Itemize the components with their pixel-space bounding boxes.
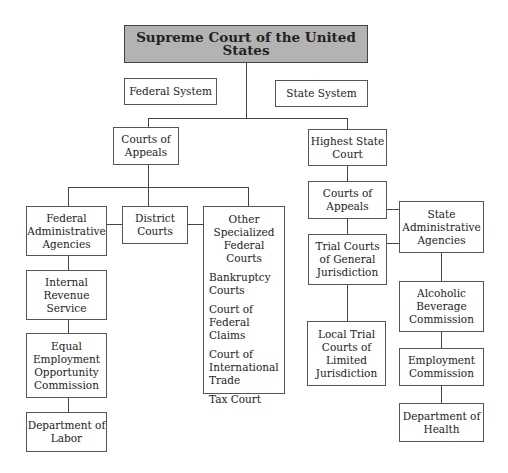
- connector: [386, 243, 399, 244]
- connector: [68, 187, 249, 188]
- other-specialized-federal-courts: Other Specialized Federal Courts Bankrup…: [203, 206, 285, 394]
- connector: [68, 256, 69, 270]
- label: Department of Health: [403, 410, 481, 436]
- connector: [347, 118, 348, 129]
- eeoc: Equal Employment Opportunity Commission: [26, 333, 107, 398]
- trial-courts-general-jurisdiction: Trial Courts of General Jurisdiction: [308, 234, 387, 285]
- state-system-label-box: State System: [275, 80, 368, 107]
- alcoholic-beverage-commission: Alcoholic Beverage Commission: [399, 281, 484, 332]
- connector: [187, 224, 203, 225]
- federal-system-label: Federal System: [129, 85, 212, 98]
- specialized-item: Bankruptcy Courts: [209, 271, 279, 297]
- local-trial-courts-limited-jurisdiction: Local Trial Courts of Limited Jurisdicti…: [307, 321, 386, 386]
- specialized-item: Tax Court: [209, 393, 279, 406]
- federal-administrative-agencies: Federal Administrative Agencies: [26, 206, 107, 256]
- label: Trial Courts of General Jurisdiction: [315, 240, 379, 279]
- supreme-court-box: Supreme Court of the United States: [124, 25, 368, 63]
- label: Employment Commission: [408, 354, 475, 380]
- label: Highest State Court: [311, 135, 384, 161]
- highest-state-court: Highest State Court: [308, 129, 387, 166]
- connector: [347, 285, 348, 321]
- label: Federal Administrative Agencies: [27, 212, 105, 251]
- connector: [246, 63, 247, 118]
- connector: [248, 187, 249, 206]
- label: Equal Employment Opportunity Commission: [33, 340, 100, 392]
- employment-commission: Employment Commission: [399, 348, 484, 386]
- label: Internal Revenue Service: [43, 276, 89, 315]
- connector: [441, 332, 442, 348]
- connector: [386, 209, 399, 210]
- connector: [148, 118, 149, 127]
- label: Courts of Appeals: [121, 133, 170, 159]
- specialized-item: Court of International Trade: [209, 348, 279, 387]
- connector: [148, 118, 348, 119]
- specialized-item: Court of Federal Claims: [209, 303, 279, 342]
- internal-revenue-service: Internal Revenue Service: [26, 270, 107, 320]
- connector: [148, 187, 149, 206]
- district-courts: District Courts: [122, 206, 188, 244]
- label: District Courts: [135, 212, 175, 238]
- specialized-title: Other Specialized Federal Courts: [209, 213, 279, 265]
- label: Local Trial Courts of Limited Jurisdicti…: [316, 328, 377, 380]
- label: Alcoholic Beverage Commission: [409, 287, 474, 326]
- connector: [347, 219, 348, 234]
- connector: [106, 224, 122, 225]
- connector: [347, 166, 348, 181]
- state-system-label: State System: [286, 87, 356, 100]
- federal-courts-of-appeals: Courts of Appeals: [113, 127, 179, 165]
- connector: [148, 165, 149, 187]
- department-of-health: Department of Health: [399, 403, 484, 442]
- connector: [68, 320, 69, 333]
- label: Department of Labor: [28, 419, 106, 445]
- connector: [68, 398, 69, 412]
- state-administrative-agencies: State Administrative Agencies: [399, 201, 484, 253]
- connector: [68, 187, 69, 206]
- federal-system-label-box: Federal System: [124, 78, 217, 105]
- label: State Administrative Agencies: [402, 208, 480, 247]
- department-of-labor: Department of Labor: [26, 412, 107, 452]
- connector: [441, 253, 442, 281]
- supreme-court-label: Supreme Court of the United States: [125, 31, 367, 57]
- connector: [441, 386, 442, 403]
- state-courts-of-appeals: Courts of Appeals: [308, 181, 387, 219]
- label: Courts of Appeals: [323, 187, 372, 213]
